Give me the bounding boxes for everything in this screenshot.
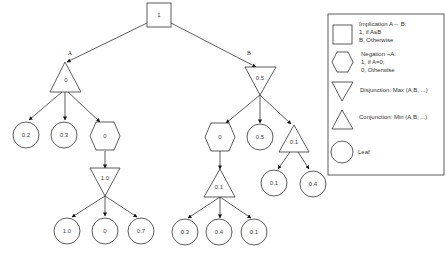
square-icon	[333, 25, 352, 44]
negation-node: 0	[205, 123, 235, 151]
legend-negation-line2: 1, if A=0;	[361, 59, 385, 65]
node-value: 0.1	[250, 229, 259, 235]
disjunction-node: 1.0	[90, 168, 120, 196]
legend-conjunction: Conjunction: Min (A,B, ...)	[359, 114, 427, 120]
node-value: 0.1	[215, 184, 224, 190]
tree-diagram: A B 1 0 0.2 0.3 0 1.0 1.0 0 0.7 0.5	[0, 0, 446, 261]
legend: Implication A→ B: 1, if A≤B B, Otherwise…	[328, 14, 444, 175]
node-value: 0.5	[256, 75, 265, 81]
legend-implication-line1: Implication A→ B:	[359, 21, 407, 27]
disjunction-node-b: 0.5	[245, 67, 276, 95]
legend-disjunction: Disjunction: Max (A,B, ...)	[360, 87, 428, 93]
leaf-node: 0.7	[128, 218, 154, 244]
conjunction-node: 0.1	[204, 169, 235, 197]
node-value: 0.4	[215, 229, 224, 235]
legend-implication-line2: 1, if A≤B	[359, 29, 381, 35]
legend-leaf: Leaf	[358, 149, 370, 155]
node-value: 0.2	[22, 132, 31, 138]
leaf-node: 1.0	[54, 218, 80, 244]
leaf-node: 0.4	[300, 171, 326, 197]
circle-icon	[331, 141, 353, 163]
legend-implication-line3: B, Otherwise	[359, 37, 394, 43]
node-value: 0.3	[181, 229, 190, 235]
conjunction-node-a: 0	[50, 62, 81, 92]
leaf-node: 0.3	[51, 122, 77, 148]
triangle-down-icon	[245, 67, 276, 95]
edge-label-b: B	[247, 50, 251, 56]
hexagon-icon	[332, 52, 353, 72]
leaf-node: 0.1	[261, 170, 287, 196]
conjunction-node: 0.1	[279, 125, 309, 152]
node-value: 1.0	[63, 228, 72, 234]
node-value: 0.4	[309, 181, 318, 187]
negation-node: 0	[90, 122, 120, 150]
triangle-down-icon	[90, 168, 120, 196]
leaf-node: 0.5	[247, 124, 273, 150]
leaf-node: 0	[92, 218, 118, 244]
node-value: 0.7	[137, 228, 146, 234]
node-value: 0.1	[270, 180, 279, 186]
node-value: 0.1	[290, 139, 299, 145]
edge-label-a: A	[68, 50, 73, 56]
leaf-node: 0.4	[206, 219, 232, 245]
legend-negation-line3: 0, Otherwise	[361, 67, 395, 73]
leaf-node: 0.3	[172, 219, 198, 245]
root-implication-node: 1	[147, 3, 171, 27]
leaf-node: 0.2	[13, 122, 39, 148]
legend-negation-line1: Negation ¬A:	[361, 51, 396, 57]
node-value: 0.5	[256, 134, 265, 140]
leaf-node: 0.1	[241, 219, 267, 245]
node-value: 1.0	[101, 175, 110, 181]
node-value: 0.3	[60, 132, 69, 138]
